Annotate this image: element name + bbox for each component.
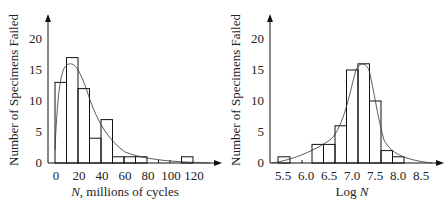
svg-text:120: 120 [184,168,204,183]
svg-text:8.0: 8.0 [390,168,406,183]
left-histogram: 0 5 10 15 20 0 20 40 60 80 100 120 N, mi… [0,0,222,206]
svg-text:7.0: 7.0 [344,168,360,183]
svg-text:7.5: 7.5 [367,168,383,183]
bars [278,64,404,163]
y-axis-label: Number of Specimens Failed [228,14,243,166]
svg-text:20: 20 [251,31,264,46]
x-tick-labels: 0 20 40 60 80 100 120 [53,168,204,183]
svg-text:8.5: 8.5 [413,168,429,183]
bars [55,58,193,163]
x-axis-label: Log N [336,184,370,199]
svg-text:0: 0 [36,155,43,170]
svg-text:100: 100 [161,168,181,183]
svg-text:10: 10 [29,93,42,108]
svg-text:6.0: 6.0 [298,168,314,183]
svg-text:6.5: 6.5 [321,168,337,183]
svg-text:40: 40 [96,168,109,183]
y-tick-labels: 0 5 10 15 20 [29,31,42,170]
svg-text:5: 5 [258,124,265,139]
svg-text:5.5: 5.5 [275,168,291,183]
svg-text:10: 10 [251,93,264,108]
x-tick-labels: 5.5 6.0 6.5 7.0 7.5 8.0 8.5 [275,168,429,183]
x-axis-label: N, millions of cycles [70,184,179,199]
svg-text:0: 0 [53,168,60,183]
svg-text:80: 80 [142,168,155,183]
svg-text:15: 15 [29,62,42,77]
y-axis-label: Number of Specimens Failed [6,14,21,166]
fitted-curve [272,64,432,163]
svg-text:5: 5 [36,124,43,139]
right-histogram: 0 5 10 15 20 5.5 6.0 6.5 7.0 7.5 8.0 8.5… [222,0,445,206]
svg-text:20: 20 [29,31,42,46]
y-tick-labels: 0 5 10 15 20 [251,31,264,170]
svg-text:20: 20 [73,168,86,183]
svg-text:60: 60 [119,168,132,183]
svg-text:0: 0 [258,155,265,170]
svg-text:15: 15 [251,62,264,77]
